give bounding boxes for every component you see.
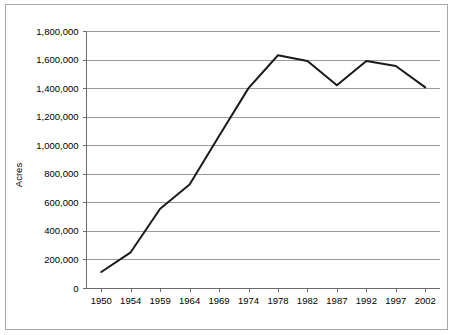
x-tick-label: 1992	[356, 295, 377, 306]
y-tick-label: 1,600,000	[36, 54, 78, 65]
x-tick-label: 1959	[150, 295, 171, 306]
y-tick-label: 1,800,000	[36, 26, 78, 37]
y-tick-label: 1,400,000	[36, 83, 78, 94]
y-tick-label: 0	[73, 283, 78, 294]
x-tick-label: 2002	[415, 295, 436, 306]
y-tick-label: 1,000,000	[36, 140, 78, 151]
x-tick-label: 1950	[91, 295, 112, 306]
y-tick-label: 800,000	[44, 168, 78, 179]
x-tick-label: 1954	[120, 295, 141, 306]
x-axis-tick-labels: 1950195419591964196919741978198219871992…	[91, 295, 436, 306]
data-line-acres	[101, 55, 425, 272]
x-tick-label: 1974	[238, 295, 259, 306]
tick-marks	[83, 32, 426, 293]
x-tick-label: 1997	[385, 295, 406, 306]
x-tick-label: 1969	[208, 295, 229, 306]
y-tick-label: 1,200,000	[36, 111, 78, 122]
line-chart: 0200,000400,000600,000800,0001,000,0001,…	[0, 0, 453, 335]
y-tick-label: 600,000	[44, 197, 78, 208]
x-tick-label: 1964	[179, 295, 200, 306]
y-tick-label: 200,000	[44, 254, 78, 265]
y-axis-title: Acres	[13, 163, 24, 188]
x-tick-label: 1978	[267, 295, 288, 306]
x-tick-label: 1982	[297, 295, 318, 306]
chart-figure: 0200,000400,000600,000800,0001,000,0001,…	[0, 0, 453, 335]
gridlines	[87, 32, 441, 260]
y-tick-label: 400,000	[44, 225, 78, 236]
y-axis-tick-labels: 0200,000400,000600,000800,0001,000,0001,…	[36, 26, 78, 294]
x-tick-label: 1987	[326, 295, 347, 306]
